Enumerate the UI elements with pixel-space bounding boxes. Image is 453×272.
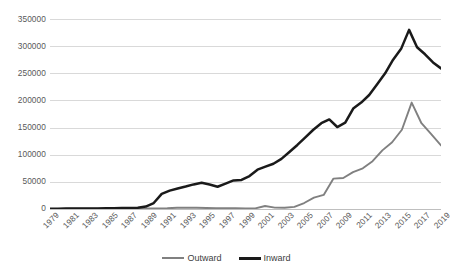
series-line-inward — [50, 30, 441, 209]
y-tick-label: 50000 — [0, 177, 46, 186]
y-tick-label: 200000 — [0, 96, 46, 105]
series-plot — [50, 19, 441, 209]
x-tick-label: 1983 — [78, 210, 101, 233]
line-chart: 350000 300000 250000 200000 150000 10000… — [0, 0, 453, 272]
legend-item-outward: Outward — [162, 253, 221, 263]
y-tick-label: 350000 — [0, 15, 46, 24]
y-tick-label: 0 — [0, 204, 46, 213]
x-tick-label: 2007 — [312, 210, 335, 233]
y-tick-label: 300000 — [0, 42, 46, 51]
legend-item-inward: Inward — [239, 253, 291, 263]
x-tick-label: 2017 — [410, 210, 433, 233]
x-tick-label: 2009 — [332, 210, 355, 233]
x-tick-label: 1995 — [195, 210, 218, 233]
x-tick-label: 1993 — [175, 210, 198, 233]
x-tick-label: 2005 — [293, 210, 316, 233]
y-tick-label: 150000 — [0, 123, 46, 132]
x-tick-label: 1989 — [136, 210, 159, 233]
legend-line-swatch-outward — [162, 257, 184, 259]
y-tick-label: 100000 — [0, 150, 46, 159]
plot-area — [50, 19, 441, 209]
x-axis: 1979198119831985198719891991199319951997… — [50, 210, 450, 250]
x-tick-label: 2011 — [351, 210, 374, 233]
x-tick-label: 1997 — [214, 210, 237, 233]
x-tick-label: 1981 — [58, 210, 81, 233]
legend-label-outward: Outward — [187, 253, 221, 263]
x-tick-label: 1987 — [117, 210, 140, 233]
x-tick-label: 2001 — [253, 210, 276, 233]
series-line-outward — [50, 103, 441, 209]
x-tick-label: 2019 — [429, 210, 452, 233]
legend-label-inward: Inward — [264, 253, 291, 263]
x-tick-label: 2015 — [390, 210, 413, 233]
y-tick-label: 250000 — [0, 69, 46, 78]
x-tick-label: 2003 — [273, 210, 296, 233]
x-tick-label: 1985 — [97, 210, 120, 233]
x-tick-label: 1991 — [156, 210, 179, 233]
chart-legend: Outward Inward — [0, 248, 453, 268]
x-tick-label: 1999 — [234, 210, 257, 233]
legend-line-swatch-inward — [239, 257, 261, 260]
x-tick-label: 2013 — [371, 210, 394, 233]
y-axis: 350000 300000 250000 200000 150000 10000… — [0, 0, 46, 228]
